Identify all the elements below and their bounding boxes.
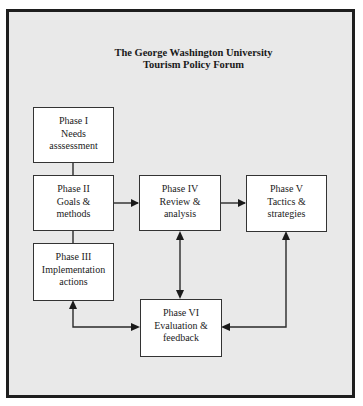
phase-4-label: Phase IV	[140, 183, 220, 196]
arrowhead-up-4	[176, 231, 184, 240]
phase-1-box: Phase I Needs asssessment	[33, 107, 114, 163]
phase-6-box: Phase VI Evaluation & feedback	[140, 299, 222, 357]
phase-1-line3: asssessment	[34, 140, 113, 153]
phase-3-line3: actions	[34, 276, 113, 289]
phase-2-line2: Goals &	[34, 196, 113, 209]
phase-1-line2: Needs	[34, 128, 113, 141]
phase-3-label: Phase III	[34, 251, 113, 264]
phase-1-label: Phase I	[34, 115, 113, 128]
arrow-3-6	[73, 309, 132, 327]
phase-5-line2: Tactics &	[247, 196, 326, 209]
phase-6-line3: feedback	[141, 332, 221, 345]
phase-3-box: Phase III Implementation actions	[33, 243, 114, 301]
arrowhead-left-6	[221, 323, 230, 331]
phase-6-line2: Evaluation &	[141, 320, 221, 333]
arrowhead-up-3	[69, 300, 77, 309]
phase-2-box: Phase II Goals & methods	[33, 175, 114, 231]
phase-4-line2: Review &	[140, 196, 220, 209]
phase-5-line3: strategies	[247, 208, 326, 221]
arrowhead-right-6	[131, 323, 140, 331]
phase-5-label: Phase V	[247, 183, 326, 196]
phase-4-box: Phase IV Review & analysis	[139, 175, 221, 231]
arrowhead-down-6	[176, 290, 184, 299]
phase-4-line3: analysis	[140, 208, 220, 221]
phase-2-line3: methods	[34, 208, 113, 221]
phase-5-box: Phase V Tactics & strategies	[246, 175, 327, 232]
phase-6-label: Phase VI	[141, 307, 221, 320]
phase-2-label: Phase II	[34, 183, 113, 196]
arrow-5-6	[230, 240, 286, 327]
arrowhead-up-5	[282, 231, 290, 240]
phase-3-line2: Implementation	[34, 264, 113, 277]
